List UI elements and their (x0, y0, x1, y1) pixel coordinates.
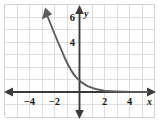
x-axis-name-label: x (146, 96, 152, 107)
x-tick-label-pos4: 4 (127, 96, 133, 107)
x-tick-label-pos2: 2 (102, 96, 107, 107)
graph-canvas: −4 −2 2 4 6 4 y x (0, 0, 160, 125)
y-tick-label-6: 6 (70, 12, 75, 23)
x-tick-label-neg4: −4 (24, 96, 36, 107)
y-axis-name-label: y (83, 8, 89, 19)
chart-figure: −4 −2 2 4 6 4 y x (0, 0, 160, 125)
x-tick-label-neg2: −2 (49, 96, 60, 107)
y-tick-label-4: 4 (70, 37, 76, 48)
